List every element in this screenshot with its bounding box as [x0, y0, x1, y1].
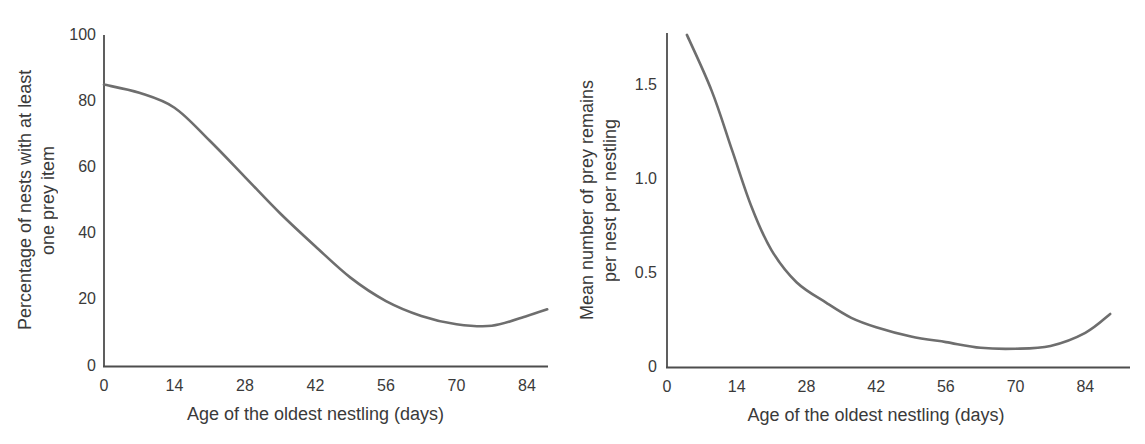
right-x-tick-label: 0	[642, 377, 692, 397]
two-panel-line-figure: Percentage of nests with at least one pr…	[0, 0, 1145, 444]
left-y-tick-label: 20	[44, 289, 96, 309]
left-x-tick-label: 42	[291, 376, 341, 396]
left-x-axis-title: Age of the oldest nestling (days)	[104, 403, 527, 425]
right-x-tick-label: 42	[851, 377, 901, 397]
left-x-tick-label: 28	[220, 376, 270, 396]
left-y-axis-title-line1: Percentage of nests with at least	[14, 34, 37, 366]
left-y-tick-label: 40	[44, 223, 96, 243]
right-x-tick-label: 70	[991, 377, 1041, 397]
left-y-axis-title: Percentage of nests with at least one pr…	[14, 34, 60, 366]
left-x-tick-label: 70	[432, 376, 482, 396]
right-x-tick-label: 84	[1060, 377, 1110, 397]
left-y-tick-label: 100	[44, 25, 96, 45]
left-y-tick-label: 60	[44, 157, 96, 177]
left-y-axis-title-line2: one prey item	[37, 34, 60, 366]
left-x-tick-label: 14	[150, 376, 200, 396]
left-curve	[104, 85, 547, 327]
left-y-tick-label: 0	[44, 356, 96, 376]
right-x-tick-label: 56	[921, 377, 971, 397]
left-x-tick-label: 56	[361, 376, 411, 396]
right-x-tick-label: 14	[712, 377, 762, 397]
right-y-tick-label: 0.5	[605, 263, 657, 283]
right-curve	[687, 35, 1110, 349]
left-x-tick-label: 84	[502, 376, 552, 396]
right-y-tick-label: 0	[605, 357, 657, 377]
left-x-tick-label: 0	[79, 376, 129, 396]
right-y-axis-title-line1: Mean number of prey remains	[576, 33, 599, 367]
right-y-tick-label: 1.5	[605, 75, 657, 95]
right-x-tick-label: 28	[781, 377, 831, 397]
right-x-axis-title: Age of the oldest nestling (days)	[667, 404, 1085, 426]
left-y-tick-label: 80	[44, 91, 96, 111]
right-y-tick-label: 1.0	[605, 169, 657, 189]
